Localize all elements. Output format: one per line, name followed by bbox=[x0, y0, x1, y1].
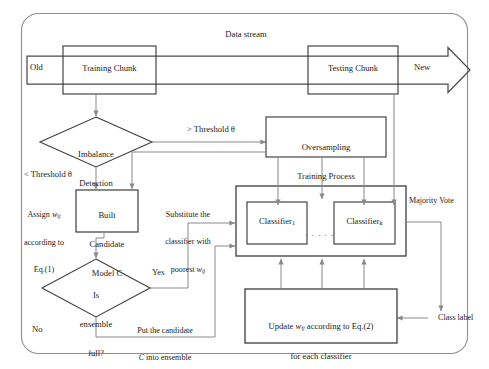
data-stream-arrow bbox=[27, 48, 470, 93]
ensemble-container bbox=[236, 186, 406, 256]
imbalance-detection-diamond bbox=[40, 117, 152, 167]
testing-chunk-box bbox=[308, 46, 398, 94]
oversampling-box bbox=[266, 117, 386, 157]
built-candidate-box bbox=[76, 190, 138, 232]
flowchart-canvas bbox=[0, 0, 489, 369]
edge-candidate-to-ensemblefull bbox=[96, 232, 104, 258]
flowchart-figure: Data stream Old New Training Chunk Testi… bbox=[0, 0, 489, 369]
edge-yes-to-ensemble bbox=[150, 223, 235, 288]
classifier-k-box bbox=[334, 202, 395, 244]
update-weights-box bbox=[245, 289, 397, 343]
edge-oversampling-to-candidate bbox=[132, 152, 266, 189]
classifier-1-box bbox=[247, 202, 307, 244]
edge-majority-vote bbox=[406, 222, 441, 311]
edge-no-to-ensemble bbox=[96, 246, 235, 337]
training-chunk-box bbox=[63, 46, 156, 94]
ensemble-full-diamond bbox=[42, 259, 150, 317]
